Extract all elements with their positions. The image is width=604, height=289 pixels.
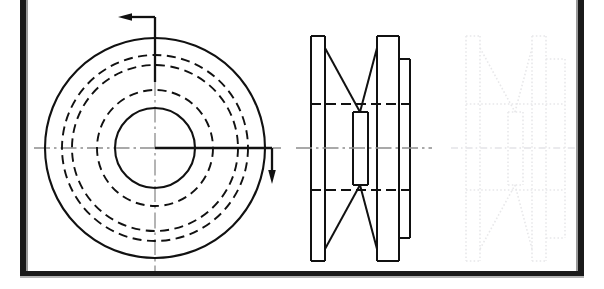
engineering-drawing-canvas	[0, 0, 604, 289]
frame-right-bar	[578, 0, 584, 289]
frame-outer-left-margin	[0, 0, 20, 289]
paper-background	[0, 0, 604, 289]
frame-left-bar	[20, 0, 26, 289]
frame-right-bar-shadow	[576, 0, 578, 289]
frame-bottom-bar	[20, 271, 584, 276]
drawing-page	[0, 0, 604, 289]
frame-bottom-bar-shadow	[20, 276, 584, 278]
frame-outer-right-margin	[584, 0, 604, 289]
frame-outer-bottom-margin	[0, 278, 604, 289]
frame-left-bar-shadow	[26, 0, 28, 289]
